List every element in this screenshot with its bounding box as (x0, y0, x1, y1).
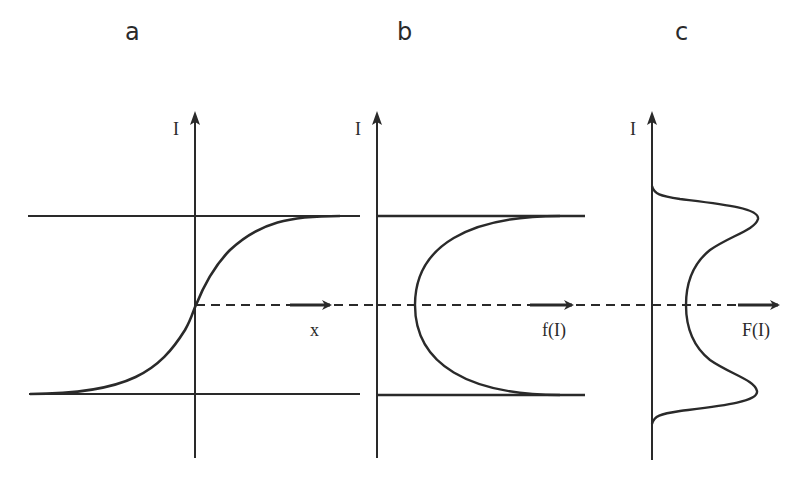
panel-a (28, 111, 377, 458)
panel-c (647, 111, 778, 460)
panel-b (372, 111, 652, 458)
diagram-canvas (0, 0, 808, 486)
